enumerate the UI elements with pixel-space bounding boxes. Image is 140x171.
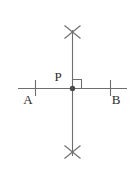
label-point-b: B <box>112 92 121 107</box>
geometry-figure: P A B <box>0 0 140 171</box>
point-p-dot <box>70 86 75 91</box>
label-point-a: A <box>23 92 33 107</box>
diagram-canvas: P A B <box>0 0 140 171</box>
label-point-p: P <box>54 69 61 84</box>
